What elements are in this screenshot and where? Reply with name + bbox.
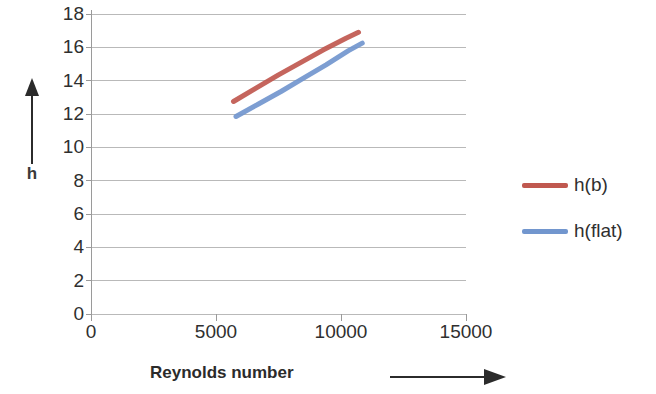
y-tick-label: 10 <box>42 137 84 156</box>
y-tick-label: 0 <box>42 304 84 323</box>
legend-label-hflat: h(flat) <box>574 221 623 241</box>
y-tick-label: 16 <box>42 37 84 56</box>
x-tick-label: 0 <box>46 322 136 342</box>
y-tick-label: 18 <box>42 4 84 23</box>
y-tick-label: 4 <box>42 237 84 256</box>
chart-legend: h(b) h(flat) <box>522 172 650 250</box>
legend-swatch-hb <box>522 183 568 188</box>
right-arrow-icon <box>388 366 508 388</box>
y-tick-label: 8 <box>42 171 84 190</box>
x-tick-label: 15000 <box>421 322 511 342</box>
chart-container: h 024681012141618 050001000015000 Reynol… <box>0 0 656 394</box>
legend-item-hb: h(b) <box>522 172 608 198</box>
y-tick-label: 12 <box>42 104 84 123</box>
legend-swatch-hflat <box>522 229 568 234</box>
plot-canvas <box>91 14 466 314</box>
x-axis-title: Reynolds number <box>150 363 294 383</box>
plot-area <box>91 14 466 314</box>
x-tick-label: 10000 <box>296 322 386 342</box>
y-tick-label: 14 <box>42 71 84 90</box>
legend-item-hflat: h(flat) <box>522 218 623 244</box>
legend-label-hb: h(b) <box>574 175 608 195</box>
y-tick-label: 2 <box>42 271 84 290</box>
y-tick-label: 6 <box>42 204 84 223</box>
x-tick-label: 5000 <box>171 322 261 342</box>
